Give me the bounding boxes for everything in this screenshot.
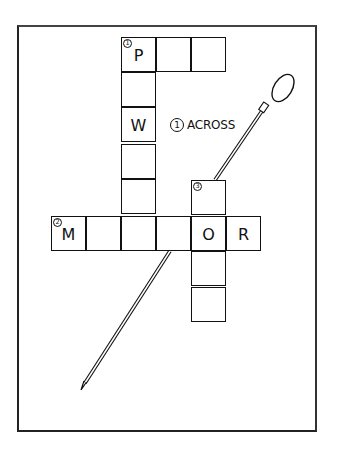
cell-letter: O <box>192 226 225 244</box>
clue-direction-text: ACROSS <box>187 118 235 132</box>
cell-letter: P <box>122 47 155 65</box>
cell-letter: W <box>122 117 155 135</box>
crossword-cell: 2M <box>51 216 86 251</box>
crossword-cell <box>191 251 226 286</box>
clue-label-1-across: 1 ACROSS <box>170 118 235 132</box>
crossword-cell <box>156 216 191 251</box>
crossword-cell: 1P <box>121 37 156 72</box>
crossword-illustration: 1PW32MOR 1 ACROSS <box>0 0 337 453</box>
clue-number-circle: 1 <box>170 118 184 132</box>
crossword-cell: R <box>226 216 261 251</box>
crossword-cell <box>191 37 226 72</box>
crossword-cell <box>121 216 156 251</box>
cell-letter: R <box>227 226 260 244</box>
crossword-cell <box>156 37 191 72</box>
crossword-cell <box>121 72 156 107</box>
crossword-cell: O <box>191 216 226 251</box>
crossword-cell: W <box>121 107 156 142</box>
crossword-cell <box>191 287 226 322</box>
crossword-cell: 3 <box>191 180 226 215</box>
cell-letter: M <box>52 226 85 244</box>
crossword-cell <box>86 216 121 251</box>
crossword-cell <box>121 144 156 179</box>
clue-number: 3 <box>193 182 202 191</box>
crossword-cell <box>121 179 156 214</box>
